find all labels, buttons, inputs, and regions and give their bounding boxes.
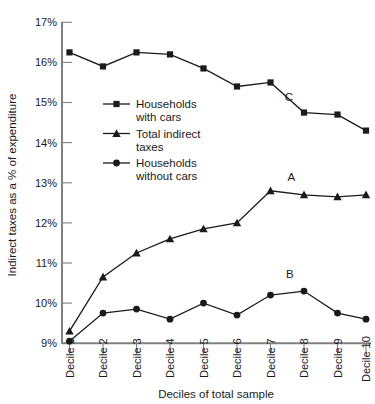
data-point: [266, 187, 274, 195]
data-point: [234, 312, 241, 319]
y-tick-label: 11%: [36, 257, 57, 269]
x-tick-label: Decile 4: [164, 338, 176, 378]
x-tick-marks: [70, 343, 367, 354]
legend-label-line2: taxes: [136, 141, 164, 153]
legend-entry: Total indirecttaxes: [103, 128, 201, 153]
data-point: [363, 128, 369, 134]
x-tick-label: Decile 2: [97, 338, 109, 378]
y-tick-label: 10%: [35, 297, 57, 309]
data-point: [234, 83, 240, 89]
series-polyline: [70, 291, 367, 341]
y-tick-label: 12%: [35, 217, 57, 229]
data-point: [363, 316, 370, 323]
x-tick-label: Decile 10: [360, 336, 372, 382]
series-1: [66, 49, 369, 133]
legend-circle-marker: [113, 160, 120, 167]
series-3: [66, 288, 369, 345]
x-tick-label: Decile 6: [231, 338, 243, 378]
y-tick-labels: 17% 16% 15% 14% 13% 12% 11% 10% 9%: [35, 16, 57, 349]
legend-square-marker: [113, 101, 119, 107]
x-tick-label: Decile 8: [298, 338, 310, 378]
data-point: [65, 327, 73, 335]
y-axis-label: Indirect taxes as a % of expenditure: [6, 94, 18, 277]
data-point: [66, 338, 73, 345]
legend-label-line2: without cars: [135, 170, 198, 182]
chart-container: Indirect taxes as a % of expenditure 17%…: [0, 0, 375, 404]
x-tick-label: Decile 5: [198, 338, 210, 378]
x-tick-label: Decile 9: [332, 338, 344, 378]
y-tick-label: 13%: [35, 177, 57, 189]
data-point: [334, 310, 341, 317]
data-point: [301, 288, 308, 295]
data-point: [100, 310, 107, 317]
data-point: [301, 109, 307, 115]
legend-label-line2: with cars: [135, 111, 182, 123]
y-tick-label: 17%: [35, 16, 57, 28]
series-polyline: [70, 52, 367, 130]
series-annotation: B: [286, 268, 294, 280]
data-point: [133, 306, 140, 313]
data-point: [133, 49, 139, 55]
data-point: [66, 49, 72, 55]
data-point: [200, 65, 206, 71]
x-tick-label: Decile 7: [265, 338, 277, 378]
legend-entry: Householdswithout cars: [103, 157, 198, 182]
x-tick-label: Decile 3: [131, 338, 143, 378]
y-tick-label: 9%: [41, 337, 57, 349]
series-annotation: C: [285, 91, 293, 103]
legend-entry: Householdswith cars: [103, 98, 197, 123]
series-polyline: [70, 191, 367, 331]
data-point: [200, 300, 207, 307]
plot-series-layer: [65, 49, 370, 344]
series-annotation: A: [287, 171, 295, 183]
series-annotations: CAB: [285, 91, 296, 280]
data-point: [334, 111, 340, 117]
legend-label: Households: [136, 98, 197, 110]
data-point: [167, 51, 173, 57]
legend-label: Total indirect: [136, 128, 201, 140]
data-point: [99, 273, 107, 281]
x-axis-label: Deciles of total sample: [158, 388, 274, 400]
legend-label: Households: [136, 157, 197, 169]
line-chart: Indirect taxes as a % of expenditure 17%…: [0, 0, 375, 404]
data-point: [267, 79, 273, 85]
y-tick-label: 15%: [35, 96, 57, 108]
data-point: [100, 63, 106, 69]
y-tick-label: 14%: [35, 137, 57, 149]
y-tick-label: 16%: [35, 56, 57, 68]
data-point: [132, 249, 140, 257]
data-point: [267, 292, 274, 299]
chart-legend: Householdswith carsTotal indirecttaxesHo…: [103, 98, 201, 182]
data-point: [167, 316, 174, 323]
